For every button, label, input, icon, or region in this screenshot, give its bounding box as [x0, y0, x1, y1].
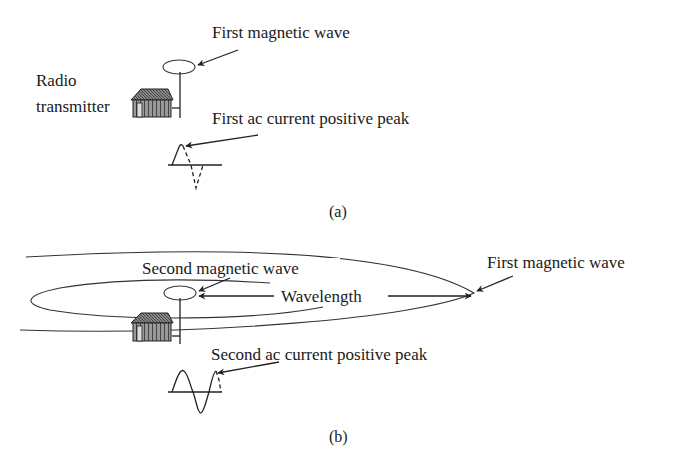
label-first-magnetic-wave: First magnetic wave — [212, 23, 350, 42]
panel-a: First magnetic wave Radio transmitter Fi… — [36, 23, 410, 221]
panel-b: Second magnetic wave Wavelength First ma… — [20, 252, 625, 446]
label-wavelength: Wavelength — [281, 287, 362, 306]
arrow-to-first-peak — [186, 135, 258, 146]
transmitter-house-icon-b — [131, 313, 173, 341]
label-radio: Radio — [36, 71, 77, 90]
caption-b: (b) — [329, 428, 348, 446]
label-transmitter: transmitter — [36, 97, 110, 116]
transmitter-house-icon — [131, 89, 173, 117]
label-first-ac-peak: First ac current positive peak — [212, 109, 410, 128]
label-second-ac-peak: Second ac current positive peak — [211, 345, 428, 364]
small-wave-ellipse — [164, 286, 196, 300]
ac-current-waveform-first — [168, 145, 222, 188]
radio-wave-diagram: First magnetic wave Radio transmitter Fi… — [0, 0, 677, 474]
label-first-magnetic-wave-b: First magnetic wave — [487, 253, 625, 272]
arrow-to-first-wave — [198, 50, 238, 65]
magnetic-wave-ellipse — [163, 60, 195, 74]
label-second-magnetic-wave: Second magnetic wave — [142, 259, 299, 278]
ac-current-waveform-second — [168, 371, 222, 414]
arrow-to-first-wave-b — [477, 276, 513, 291]
caption-a: (a) — [329, 203, 347, 221]
